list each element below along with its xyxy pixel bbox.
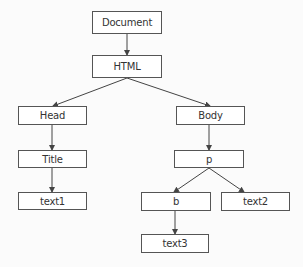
node-html: HTML bbox=[92, 55, 162, 78]
node-p: p bbox=[174, 150, 244, 168]
node-text3: text3 bbox=[141, 234, 209, 253]
node-document: Document bbox=[92, 11, 162, 34]
node-text1: text1 bbox=[18, 192, 87, 210]
node-title: Title bbox=[18, 150, 87, 168]
node-text2: text2 bbox=[221, 192, 290, 211]
edge-layer bbox=[0, 0, 303, 267]
edge-html-head bbox=[53, 78, 127, 106]
node-head: Head bbox=[18, 106, 87, 125]
node-b: b bbox=[141, 192, 211, 211]
edge-p-b bbox=[174, 168, 209, 192]
edge-p-text2 bbox=[209, 168, 244, 192]
edge-html-body bbox=[127, 78, 210, 106]
node-body: Body bbox=[176, 106, 245, 125]
